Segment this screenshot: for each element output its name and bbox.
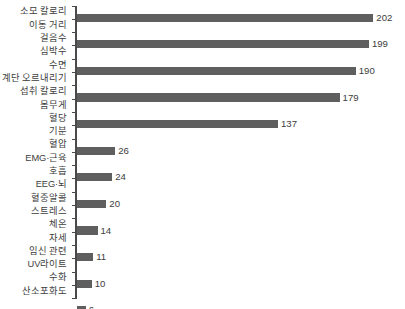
category-label: EMG·근육 bbox=[25, 154, 67, 163]
category-label: 호흡 bbox=[49, 167, 67, 176]
category-label: 산소포화도 bbox=[22, 287, 67, 296]
category-label: 자세 bbox=[49, 234, 67, 243]
category-label: 섭취 칼로리 bbox=[20, 87, 67, 96]
category-label: 계단 오르내리기 bbox=[2, 74, 67, 83]
category-label: 기분 bbox=[49, 127, 67, 136]
category-label: 수화 bbox=[49, 273, 67, 282]
category-label: 걸음수 bbox=[40, 34, 67, 43]
category-label: 소모 칼로리 bbox=[20, 7, 67, 16]
category-label: 스트레스 bbox=[31, 207, 67, 216]
category-label: 수면 bbox=[49, 61, 67, 70]
category-label: UV라이트 bbox=[28, 260, 67, 269]
category-label: 혈압 bbox=[49, 140, 67, 149]
value-label: 6 bbox=[89, 305, 94, 309]
category-label: 이동 거리 bbox=[29, 21, 67, 30]
category-label: EEG·뇌 bbox=[36, 180, 67, 189]
category-label: 체온 bbox=[49, 220, 67, 229]
axis-tick bbox=[72, 298, 75, 299]
category-label: 임신 관련 bbox=[29, 247, 67, 256]
category-label: 혈당 bbox=[49, 114, 67, 123]
horizontal-bar-chart: 20219919017913726242014111066665544211 소… bbox=[0, 0, 405, 309]
category-label: 혈중알콜 bbox=[31, 194, 67, 203]
category-label: 몸무게 bbox=[40, 101, 67, 110]
category-label: 심박수 bbox=[40, 47, 67, 56]
